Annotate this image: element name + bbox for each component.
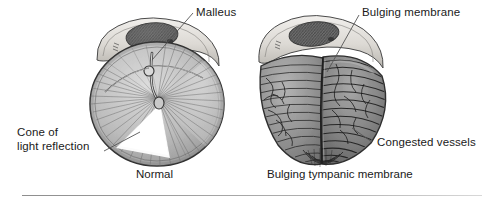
- label-malleus: Malleus: [196, 6, 236, 20]
- label-cone-line2: light reflection: [17, 140, 90, 154]
- bulge-lobe-anterior: [255, 55, 325, 164]
- label-congested-vessels: Congested vessels: [377, 136, 476, 150]
- label-cone-of-light-reflection: Cone of light reflection: [17, 126, 90, 153]
- illustration-canvas: [0, 0, 489, 201]
- label-cone-line1: Cone of: [17, 126, 90, 140]
- label-bulging-membrane: Bulging membrane: [362, 6, 460, 20]
- eardrum-comparison-figure: Malleus Cone of light reflection Bulging…: [0, 0, 489, 201]
- bulging-eardrum-drawing: [255, 16, 391, 167]
- caption-normal: Normal: [136, 168, 173, 180]
- bottom-divider-rule: [22, 195, 482, 196]
- caption-bulging-tympanic-membrane: Bulging tympanic membrane: [267, 168, 413, 180]
- lateral-process: [144, 66, 154, 76]
